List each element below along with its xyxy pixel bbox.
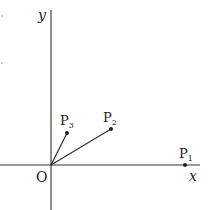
point-p1-label: P1 [179, 146, 193, 163]
point-p2 [109, 127, 113, 131]
origin-label: O [36, 169, 47, 185]
point-p3-label: P3 [60, 113, 74, 130]
point-p3 [65, 131, 69, 135]
edge-mark [1, 15, 3, 17]
edge-mark [1, 62, 3, 64]
y-axis-label: y [37, 7, 47, 23]
point-p1 [183, 163, 187, 167]
x-axis-label: x [189, 168, 197, 184]
point-p2-label: P2 [103, 110, 117, 127]
coordinate-diagram: y x O P1 P2 P3 [0, 0, 212, 210]
